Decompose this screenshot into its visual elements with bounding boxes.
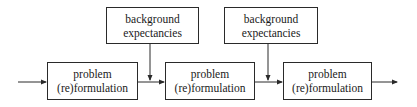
problem-reformulation-box-2: problem (re)formulation bbox=[165, 62, 255, 100]
box-label-line2: expectancies bbox=[123, 26, 182, 40]
box-label-line1: problem bbox=[191, 67, 229, 81]
box-label-line2: (re)formulation bbox=[292, 81, 363, 95]
box-label-line1: background bbox=[125, 12, 179, 26]
box-label-line2: (re)formulation bbox=[175, 81, 246, 95]
box-label-line1: problem bbox=[308, 67, 346, 81]
box-label-line2: (re)formulation bbox=[57, 81, 128, 95]
box-label-line1: problem bbox=[73, 67, 111, 81]
background-expectancies-box-2: background expectancies bbox=[224, 7, 318, 44]
box-label-line1: background bbox=[244, 12, 298, 26]
background-expectancies-box-1: background expectancies bbox=[106, 7, 199, 44]
problem-reformulation-box-1: problem (re)formulation bbox=[47, 62, 138, 100]
box-label-line2: expectancies bbox=[242, 26, 301, 40]
problem-reformulation-box-3: problem (re)formulation bbox=[283, 62, 372, 100]
